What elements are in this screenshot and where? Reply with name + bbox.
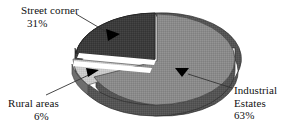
street-corner-percent: 31% — [21, 17, 79, 30]
industrial-estates-percent: 63% — [234, 109, 277, 122]
pie-chart-figure: Street corner 31% Rural areas 6% Industr… — [0, 0, 294, 133]
rural-areas-label: Rural areas 6% — [8, 97, 59, 122]
street-corner-label: Street corner 31% — [21, 4, 79, 29]
industrial-estates-label-line2: Estates — [234, 97, 277, 110]
rural-areas-label-text: Rural areas — [8, 97, 59, 109]
industrial-estates-label-line1: Industrial — [234, 84, 277, 96]
industrial-estates-label: Industrial Estates 63% — [234, 84, 277, 122]
rural-areas-percent: 6% — [8, 110, 59, 123]
street-corner-label-text: Street corner — [21, 4, 79, 16]
